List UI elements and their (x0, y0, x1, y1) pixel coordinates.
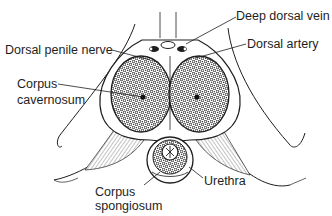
label-dorsal-penile-nerve: Dorsal penile nerve (5, 43, 113, 58)
anatomy-diagram: Deep dorsal vein Dorsal artery Dorsal pe… (0, 0, 332, 216)
right-corpus-cavernosum (169, 56, 229, 132)
label-corpus-cavernosum-line1: Corpus (17, 77, 57, 92)
label-urethra: Urethra (204, 174, 246, 189)
label-corpus-spongiosum-line1: Corpus (95, 185, 135, 200)
cross-section-drawing (0, 0, 332, 216)
label-dorsal-artery: Dorsal artery (247, 37, 319, 52)
label-corpus-cavernosum-line2: cavernosum (17, 93, 85, 108)
label-corpus-spongiosum-line2: spongiosum (95, 199, 162, 214)
label-deep-dorsal-vein: Deep dorsal vein (236, 9, 330, 24)
corpus-spongiosum-drawing (147, 137, 193, 183)
left-corpus-cavernosum (111, 56, 171, 132)
